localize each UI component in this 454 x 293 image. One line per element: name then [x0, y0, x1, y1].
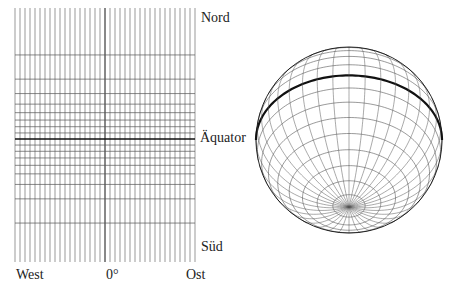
label-east: Ost [186, 268, 205, 282]
label-west: West [16, 268, 44, 282]
globe-meridian [349, 60, 409, 207]
label-equator: Äquator [200, 131, 246, 145]
map-projection-figure: Nord Äquator Süd West 0° Ost [0, 0, 454, 293]
label-prime-meridian: 0° [106, 268, 119, 282]
globe-meridian [289, 60, 349, 207]
label-south: Süd [201, 240, 223, 254]
globe-sphere [0, 0, 454, 293]
globe-meridian [349, 207, 360, 232]
label-north: Nord [201, 11, 230, 25]
globe-meridian [338, 207, 349, 232]
